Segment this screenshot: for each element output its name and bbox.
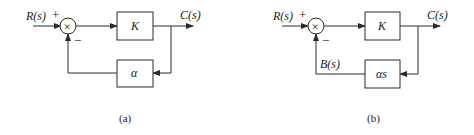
minus-sign-a: −: [74, 33, 81, 48]
minus-sign-b: −: [322, 33, 329, 48]
block-diagrams: R(s) + × − K C(s) α (a) R(s) + × − K C(s…: [0, 0, 474, 135]
input-label-b: R(s): [272, 9, 293, 23]
caption-a: (a): [119, 112, 132, 125]
forward-block-label-b: K: [377, 19, 387, 33]
plus-sign-b: +: [299, 7, 306, 22]
summing-cross-icon-a: ×: [64, 19, 71, 34]
output-label-a: C(s): [180, 8, 201, 22]
feedback-branch-b: [400, 26, 418, 74]
plus-sign-a: +: [52, 7, 59, 22]
feedback-block-label-a: α: [131, 66, 138, 80]
forward-block-label-a: K: [130, 19, 140, 33]
diagram-a: R(s) + × − K C(s) α (a): [25, 7, 201, 125]
feedback-block-label-b: αs: [376, 67, 387, 81]
summing-cross-icon-b: ×: [312, 19, 319, 34]
caption-b: (b): [367, 112, 380, 125]
output-label-b: C(s): [427, 8, 448, 22]
input-label-a: R(s): [25, 9, 46, 23]
diagram-b: R(s) + × − K C(s) αs B(s) (b): [272, 7, 448, 125]
feedback-signal-label-b: B(s): [320, 57, 340, 71]
feedback-branch-a: [153, 26, 171, 73]
